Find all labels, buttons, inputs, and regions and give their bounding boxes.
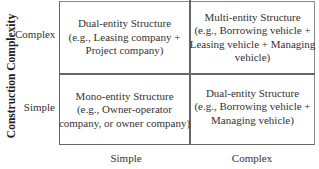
cell-example: (e.g., Borrowing vehicle + [194,100,310,114]
cell-example: (e.g., Owner-operator [59,103,190,117]
cell-title: Dual-entity Structure [194,87,310,101]
cell-example: Managing vehicle) [194,114,310,128]
cell-example: vehicle) [190,51,316,65]
cell-simple-complex: Dual-entity Structure (e.g., Borrowing v… [190,75,315,139]
cell-title: Dual-entity Structure [69,17,181,31]
cell-title: Multi-entity Structure [190,11,316,25]
cell-simple-simple: Mono-entity Structure (e.g., Owner-opera… [60,75,189,145]
x-tick-complex: Complex [212,152,292,164]
y-tick-simple: Simple [15,101,55,113]
cell-title: Mono-entity Structure [59,90,190,104]
cell-example: company, or owner company) [59,117,190,131]
y-tick-complex: Complex [15,28,55,40]
x-tick-simple: Simple [86,152,166,164]
cell-example: (e.g., Borrowing vehicle + [190,24,316,38]
cell-complex-simple: Dual-entity Structure (e.g., Leasing com… [60,2,189,73]
cell-complex-complex: Multi-entity Structure (e.g., Borrowing … [190,2,315,73]
cell-example: (e.g., Leasing company + [69,31,181,45]
cell-example: Leasing vehicle + Managing [190,38,316,52]
y-axis-title: Construction Complexity [1,6,21,146]
cell-example: Project company) [69,44,181,58]
